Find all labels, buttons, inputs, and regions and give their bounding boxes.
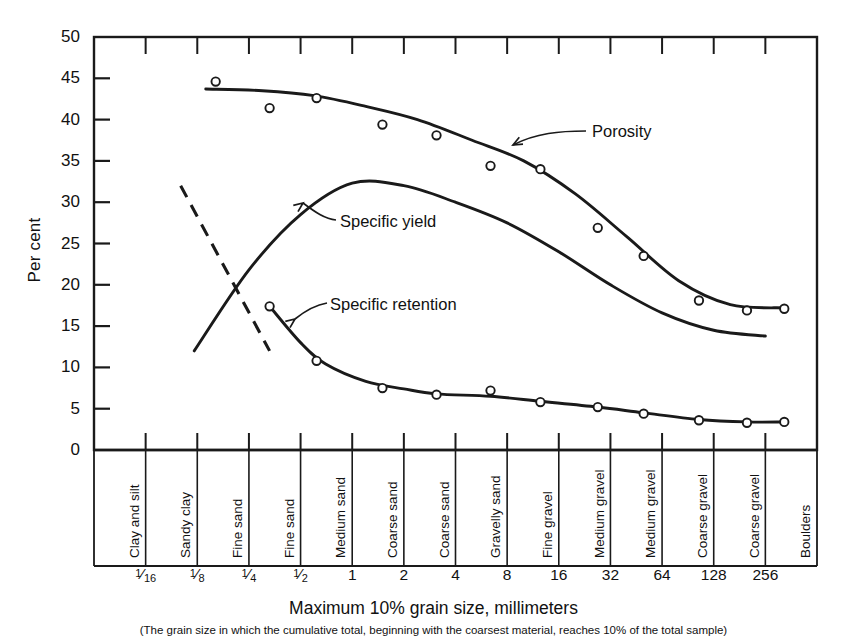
porosity-point bbox=[211, 77, 219, 85]
x-axis-tick-labels: 1⁄161⁄81⁄41⁄21248163264128256 bbox=[0, 566, 867, 592]
category-label: Coarse sand bbox=[385, 442, 407, 558]
porosity-point bbox=[780, 305, 788, 313]
data-curves bbox=[181, 89, 785, 422]
category-label: Clay and silt bbox=[127, 442, 149, 558]
x-tick-label: 128 bbox=[701, 566, 727, 584]
y-axis-tick-labels: 05101520253035404550 bbox=[0, 0, 94, 470]
specific-retention-dashed bbox=[181, 186, 270, 351]
x-tick-label: 1⁄2 bbox=[293, 566, 308, 584]
porosity-point bbox=[536, 165, 544, 173]
annotation-leader bbox=[303, 203, 336, 220]
specific-retention-point bbox=[695, 416, 703, 424]
x-axis-footnote: (The grain size in which the cumulative … bbox=[0, 624, 867, 636]
y-tick-label: 25 bbox=[61, 234, 80, 254]
category-label: Coarse gravel bbox=[695, 442, 717, 558]
y-tick-label: 30 bbox=[61, 192, 80, 212]
y-tick-label: 0 bbox=[71, 440, 80, 460]
porosity-point bbox=[378, 120, 386, 128]
y-tick-label: 15 bbox=[61, 316, 80, 336]
y-tick-label: 5 bbox=[71, 399, 80, 419]
porosity-point bbox=[312, 94, 320, 102]
specific-retention-point bbox=[486, 386, 494, 394]
annotation-leader bbox=[513, 131, 586, 145]
y-tick-label: 35 bbox=[61, 151, 80, 171]
category-label: Medium gravel bbox=[643, 442, 665, 558]
annotation-leader bbox=[295, 303, 327, 319]
curve-label-specific-yield: Specific yield bbox=[340, 212, 436, 231]
category-label: Fine gravel bbox=[540, 442, 562, 558]
porosity-point bbox=[486, 162, 494, 170]
category-label: Gravelly sand bbox=[488, 442, 510, 558]
specific-yield-curve bbox=[194, 181, 765, 351]
x-tick-label: 8 bbox=[503, 566, 512, 584]
curve-label-porosity: Porosity bbox=[592, 122, 652, 141]
category-label: Coarse sand bbox=[437, 442, 459, 558]
x-tick-label: 32 bbox=[602, 566, 619, 584]
x-tick-label: 2 bbox=[400, 566, 409, 584]
specific-retention-point bbox=[312, 357, 320, 365]
porosity-point bbox=[639, 252, 647, 260]
data-markers bbox=[211, 77, 788, 427]
specific-retention-point bbox=[536, 398, 544, 406]
category-label: Fine sand bbox=[230, 442, 252, 558]
x-tick-label: 1 bbox=[348, 566, 357, 584]
category-label: Coarse gravel bbox=[747, 442, 769, 558]
category-label: Fine sand bbox=[282, 442, 304, 558]
porosity-curve bbox=[206, 89, 785, 308]
porosity-point bbox=[594, 224, 602, 232]
curve-label-specific-retention: Specific retention bbox=[330, 295, 457, 314]
y-tick-label: 50 bbox=[61, 27, 80, 47]
y-tick-label: 40 bbox=[61, 110, 80, 130]
porosity-point bbox=[695, 296, 703, 304]
x-axis-title: Maximum 10% grain size, millimeters bbox=[0, 598, 867, 619]
x-tick-label: 64 bbox=[653, 566, 670, 584]
porosity-point bbox=[432, 131, 440, 139]
x-tick-label: 1⁄16 bbox=[135, 566, 156, 584]
category-label: Medium gravel bbox=[592, 442, 614, 558]
chart-root: Per cent 05101520253035404550 Clay and s… bbox=[0, 0, 867, 644]
specific-retention-point bbox=[378, 384, 386, 392]
category-label: Sandy clay bbox=[178, 442, 200, 558]
y-axis-ticks bbox=[94, 78, 110, 408]
specific-retention-curve bbox=[270, 306, 785, 422]
plot-frame bbox=[94, 37, 817, 450]
x-tick-label: 256 bbox=[752, 566, 778, 584]
y-tick-label: 45 bbox=[61, 68, 80, 88]
y-tick-label: 10 bbox=[61, 357, 80, 377]
category-label: Boulders bbox=[798, 442, 820, 558]
specific-retention-point bbox=[432, 390, 440, 398]
annotation-arrowhead bbox=[293, 203, 303, 212]
x-tick-label: 1⁄4 bbox=[242, 566, 257, 584]
porosity-point bbox=[743, 306, 751, 314]
specific-retention-point bbox=[594, 403, 602, 411]
x-axis-ticks bbox=[146, 37, 766, 450]
specific-retention-point bbox=[780, 418, 788, 426]
category-label: Medium sand bbox=[333, 442, 355, 558]
specific-retention-point bbox=[743, 419, 751, 427]
x-tick-label: 4 bbox=[451, 566, 460, 584]
specific-retention-point bbox=[639, 409, 647, 417]
porosity-point bbox=[265, 104, 273, 112]
x-tick-label: 1⁄8 bbox=[190, 566, 205, 584]
y-tick-label: 20 bbox=[61, 275, 80, 295]
x-tick-label: 16 bbox=[550, 566, 567, 584]
specific-retention-point bbox=[265, 302, 273, 310]
